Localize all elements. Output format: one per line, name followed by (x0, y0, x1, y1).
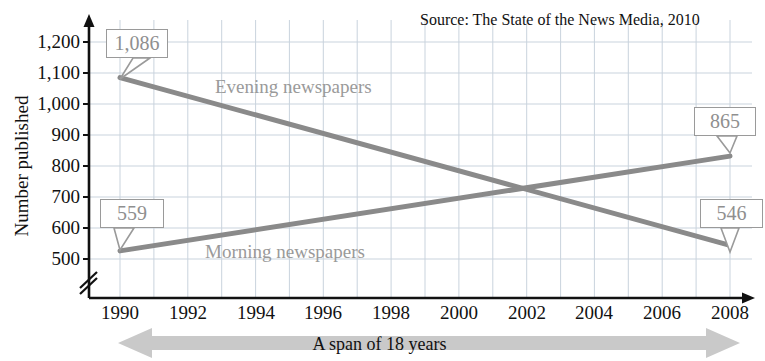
x-tick-label: 2004 (559, 302, 629, 324)
x-tick-label: 2002 (492, 302, 562, 324)
callout-morning-start: 559 (100, 199, 164, 228)
series-label-evening: Evening newspapers (215, 76, 372, 98)
series-label-morning: Morning newspapers (205, 241, 365, 263)
x-tick-label: 2000 (424, 302, 494, 324)
callout-evening-end: 546 (700, 199, 763, 228)
callout-morning-end: 865 (694, 107, 756, 136)
x-tick-label: 2006 (627, 302, 697, 324)
callout-evening-start: 1,086 (106, 29, 168, 58)
y-axis-title: Number published (11, 76, 33, 256)
x-tick-label: 1994 (221, 302, 291, 324)
span-caption: A span of 18 years (0, 334, 759, 355)
y-tick-label: 1,200 (18, 31, 80, 53)
source-note: Source: The State of the News Media, 201… (420, 11, 700, 29)
x-tick-label: 1996 (288, 302, 358, 324)
y-axis (83, 14, 95, 298)
x-tick-label: 1992 (153, 302, 223, 324)
x-tick-label: 2008 (695, 302, 765, 324)
x-tick-label: 1998 (356, 302, 426, 324)
x-tick-label: 1990 (85, 302, 155, 324)
